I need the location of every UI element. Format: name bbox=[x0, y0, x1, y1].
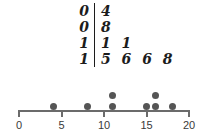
data-point-dot bbox=[143, 103, 150, 110]
x-axis-tick-label: 15 bbox=[135, 119, 159, 131]
stem-leaf-body: 0 4 0 8 1 1 1 1 5 6 6 8 bbox=[74, 3, 176, 67]
stem-value: 1 bbox=[74, 35, 94, 51]
leaf-values: 8 bbox=[95, 19, 176, 35]
x-axis-tick-label: 5 bbox=[50, 119, 74, 131]
stem-leaf-table: 0 4 0 8 1 1 1 1 5 6 6 8 bbox=[74, 3, 176, 67]
stem-value: 0 bbox=[74, 3, 94, 19]
x-axis-tick bbox=[188, 110, 190, 117]
data-point-dot bbox=[152, 103, 159, 110]
stem-leaf-row: 1 1 1 bbox=[74, 35, 176, 51]
stem-leaf-row: 0 4 bbox=[74, 3, 176, 19]
figure-canvas: 0 4 0 8 1 1 1 1 5 6 6 8 bbox=[0, 0, 207, 139]
leaf-values: 5 6 6 8 bbox=[95, 51, 176, 67]
x-axis-tick-label: 0 bbox=[7, 119, 31, 131]
data-point-dot bbox=[109, 103, 116, 110]
leaf-values: 1 1 bbox=[95, 35, 176, 51]
stem-value: 1 bbox=[74, 51, 94, 67]
dot-plot-area bbox=[0, 70, 207, 115]
stem-value: 0 bbox=[74, 19, 94, 35]
x-axis-tick-label: 10 bbox=[92, 119, 116, 131]
stem-leaf-row: 0 8 bbox=[74, 19, 176, 35]
data-point-dot bbox=[109, 92, 116, 99]
data-point-dot bbox=[169, 103, 176, 110]
x-axis-tick-label: 20 bbox=[177, 119, 201, 131]
data-point-dot bbox=[152, 92, 159, 99]
stem-leaf-row: 1 5 6 6 8 bbox=[74, 51, 176, 67]
dot-plot: 05101520 bbox=[0, 70, 207, 139]
stem-and-leaf-plot: 0 4 0 8 1 1 1 1 5 6 6 8 bbox=[0, 0, 207, 70]
x-axis-tick bbox=[61, 110, 63, 117]
x-axis-tick bbox=[146, 110, 148, 117]
data-point-dot bbox=[50, 103, 57, 110]
data-point-dot bbox=[84, 103, 91, 110]
x-axis-tick bbox=[103, 110, 105, 117]
x-axis-tick bbox=[18, 110, 20, 117]
leaf-values: 4 bbox=[95, 3, 176, 19]
